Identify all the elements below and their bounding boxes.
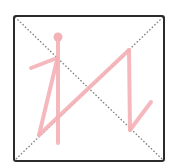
head-dot-stroke	[54, 33, 63, 42]
drawing-canvas[interactable]	[0, 0, 172, 165]
right-vertical-stroke	[129, 50, 130, 130]
canvas-background	[0, 0, 172, 165]
